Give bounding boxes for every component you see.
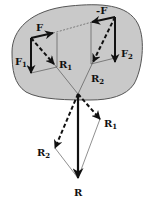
label-R: R [74, 187, 83, 198]
force-diagram: F F1 R1 -F F2 R2 R1 R2 R [0, 0, 152, 206]
vector-R2-translated [55, 94, 78, 148]
label-minus-F: -F [96, 5, 107, 16]
label-R2-bottom: R2 [37, 147, 50, 160]
label-F: F [36, 22, 43, 33]
label-R1-bottom: R1 [104, 118, 117, 131]
